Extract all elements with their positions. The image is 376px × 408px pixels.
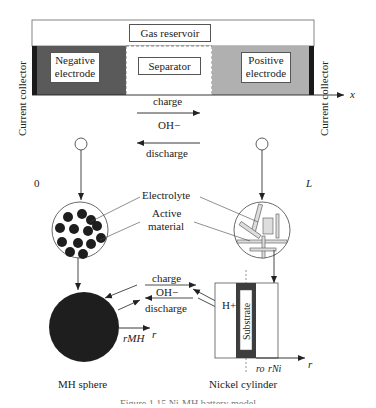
active-label-line2: material	[148, 220, 184, 233]
charge-label: charge	[153, 95, 182, 108]
x-axis-label: x	[350, 88, 355, 101]
negative-electrode-label: Negative electrode	[50, 52, 100, 83]
gas-reservoir-label: Gas reservoir	[129, 24, 211, 42]
electrolyte-label: Electrolyte	[142, 189, 190, 202]
positive-electrode-label: Positive electrode	[241, 52, 291, 83]
proton-label: H+	[222, 299, 236, 312]
discharge-label: discharge	[146, 147, 188, 160]
r-o-label: ro	[256, 362, 265, 375]
mh-sphere-label: MH sphere	[58, 378, 107, 391]
substrate-label: Substrate	[241, 303, 252, 340]
particle-discharge-label: discharge	[145, 302, 187, 315]
mh-sphere	[49, 292, 119, 362]
current-collector-left-label: Current collector	[16, 61, 28, 136]
r-mh-label: rMH	[123, 332, 144, 345]
hydroxide-label: OH−	[158, 119, 180, 132]
axis-origin-label: 0	[34, 177, 40, 190]
active-label-line1: Active	[152, 207, 181, 220]
left-current-collector	[32, 46, 37, 95]
r-ni-label: rNi	[268, 362, 281, 375]
figure-caption: Figure 1.15 Ni-MH battery model	[0, 398, 376, 404]
particle-hydroxide-label: OH−	[156, 286, 178, 299]
right-current-collector	[309, 46, 314, 95]
nickel-cylinder-label: Nickel cylinder	[209, 378, 277, 391]
separator-label: Separator	[138, 57, 201, 75]
current-collector-right-label: Current collector	[318, 61, 330, 136]
r-label: r	[152, 328, 156, 341]
axis-end-label: L	[306, 177, 312, 190]
r-axis-label: r	[308, 358, 312, 371]
particle-charge-label: charge	[152, 272, 181, 285]
